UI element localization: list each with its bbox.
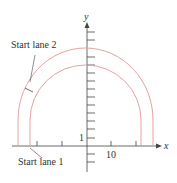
- y-tick-label-1: 1: [79, 133, 84, 143]
- lane2-start-mark: [25, 88, 33, 92]
- outer-lane-curve: [18, 48, 153, 146]
- x-tick-label-10: 10: [106, 150, 116, 160]
- start-lane-1-label: Start lane 1: [18, 157, 64, 167]
- lane2-pointer: [30, 55, 35, 82]
- y-axis-label: y: [84, 12, 88, 22]
- x-axis-label: x: [164, 141, 168, 151]
- inner-lane-curve: [30, 65, 141, 146]
- y-axis-arrow-icon: [85, 22, 90, 28]
- x-axis-arrow-icon: [156, 144, 162, 149]
- start-lane-2-label: Start lane 2: [11, 40, 57, 50]
- x-axis: [12, 141, 158, 146]
